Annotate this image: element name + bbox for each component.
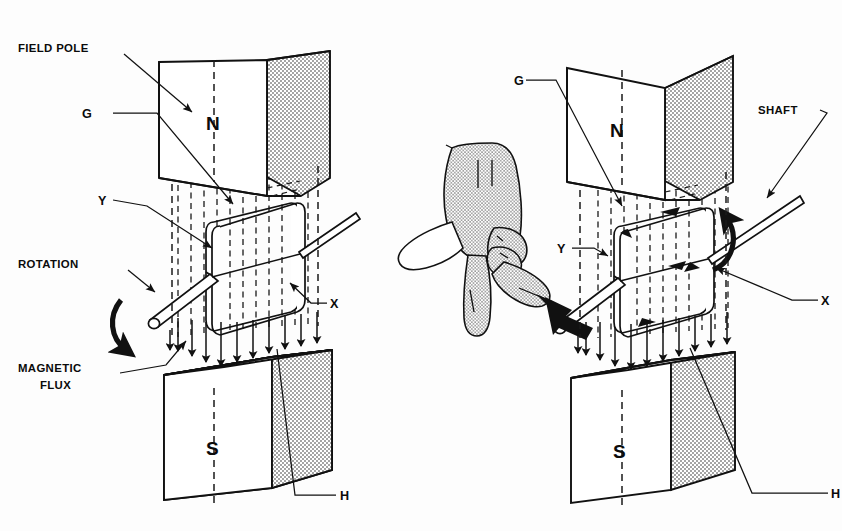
label-y-left: Y [98, 194, 107, 208]
label-g-right: G [514, 74, 524, 88]
label-south-pole-right: S [613, 441, 626, 462]
label-shaft: SHAFT [758, 104, 798, 116]
generator-principle-figure: FIELD POLE G Y X H N S ROTATION MAGNETIC… [0, 0, 842, 531]
label-h-left: H [340, 489, 349, 503]
label-x-right: X [821, 294, 830, 308]
label-magnetic-flux-line1: MAGNETIC [18, 362, 82, 374]
label-g-left: G [82, 107, 92, 121]
field-pole-north [159, 51, 330, 196]
label-magnetic-flux-line2: FLUX [40, 379, 71, 391]
field-pole-south [164, 350, 332, 500]
label-north-pole-right: N [610, 120, 624, 141]
label-rotation: ROTATION [18, 258, 79, 270]
diagram-canvas: FIELD POLE G Y X H N S ROTATION MAGNETIC… [0, 0, 842, 531]
label-north-pole-left: N [206, 113, 220, 134]
label-x-left: X [330, 297, 339, 311]
label-y-right: Y [557, 242, 566, 256]
label-field-pole: FIELD POLE [18, 42, 89, 54]
label-h-right: H [831, 487, 840, 501]
label-south-pole-left: S [206, 438, 219, 459]
